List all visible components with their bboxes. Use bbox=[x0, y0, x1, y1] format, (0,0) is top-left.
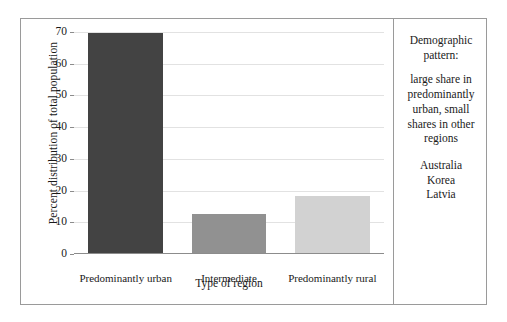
y-axis-tick-label: 40 bbox=[56, 121, 68, 133]
bar bbox=[295, 196, 369, 253]
y-axis-tick-mark bbox=[70, 32, 74, 33]
side-panel-country-list: AustraliaKoreaLatvia bbox=[400, 158, 482, 202]
side-panel: Demographic pattern: large share in pred… bbox=[394, 19, 488, 306]
y-axis-tick-mark bbox=[70, 127, 74, 128]
y-axis-tick-label: 20 bbox=[56, 185, 68, 197]
side-panel-description: large share in predominantly urban, smal… bbox=[400, 72, 482, 146]
y-axis-tick-mark bbox=[70, 222, 74, 223]
x-axis-line bbox=[74, 253, 384, 254]
y-axis-tick-label: 70 bbox=[56, 26, 68, 38]
x-axis-title: Type of region bbox=[74, 277, 384, 289]
bar bbox=[88, 33, 162, 253]
y-axis-tick-label: 50 bbox=[56, 90, 68, 102]
y-axis-tick-label: 0 bbox=[61, 248, 67, 260]
side-panel-country: Australia bbox=[400, 158, 482, 173]
y-axis-tick-label: 30 bbox=[56, 153, 68, 165]
bar bbox=[192, 214, 266, 253]
y-axis-tick-mark bbox=[70, 191, 74, 192]
y-axis-tick-mark bbox=[70, 159, 74, 160]
y-axis-tick-label: 60 bbox=[56, 58, 68, 70]
figure-container: Percent distribution of total population… bbox=[20, 18, 487, 305]
side-panel-country: Korea bbox=[400, 173, 482, 188]
y-axis-tick-mark bbox=[70, 95, 74, 96]
y-axis-tick-mark bbox=[70, 254, 74, 255]
y-axis-tick-mark bbox=[70, 64, 74, 65]
bar-chart: Percent distribution of total population… bbox=[21, 19, 393, 306]
side-panel-heading: Demographic pattern: bbox=[400, 33, 482, 62]
plot-area: 010203040506070 Predominantly urbanInter… bbox=[74, 32, 384, 254]
y-axis-tick-label: 10 bbox=[56, 217, 68, 229]
side-panel-country: Latvia bbox=[400, 187, 482, 202]
